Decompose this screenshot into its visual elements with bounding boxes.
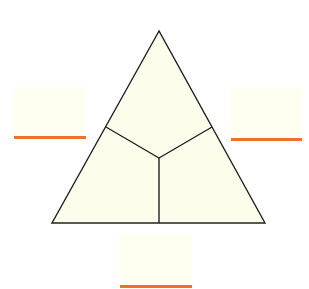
right-label-field[interactable]: [231, 88, 302, 141]
left-label-field[interactable]: [14, 87, 86, 139]
right-label-underline: [231, 138, 302, 141]
right-label-text: [231, 88, 302, 137]
bottom-label-text: [120, 234, 192, 285]
left-label-underline: [14, 136, 86, 139]
bottom-label-field[interactable]: [120, 234, 192, 289]
bottom-label-underline: [120, 285, 192, 288]
left-label-text: [14, 87, 86, 135]
